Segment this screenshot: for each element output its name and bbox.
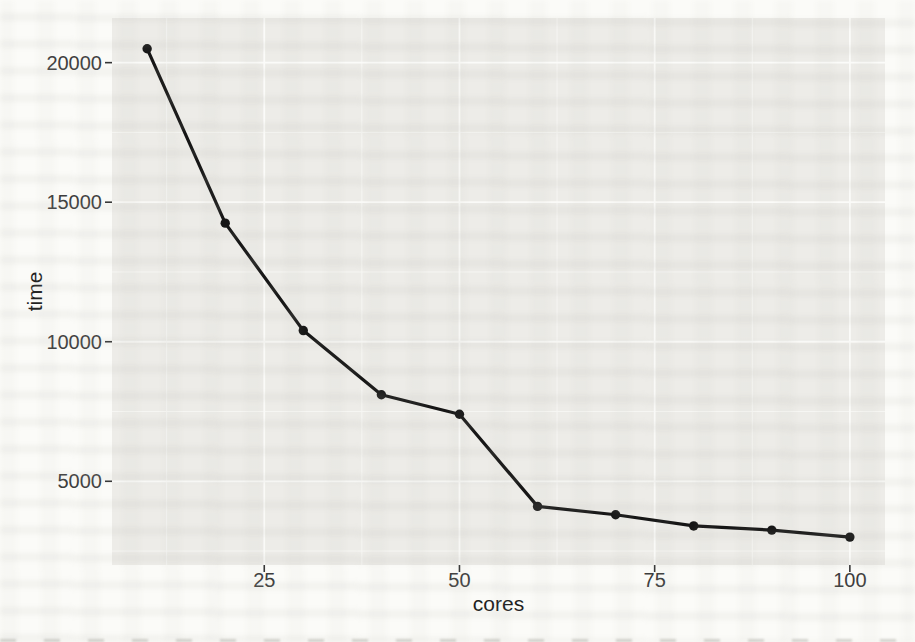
line-chart-figure: 2550751005000100001500020000corestime xyxy=(0,0,915,642)
plot-panel xyxy=(112,18,885,565)
y-tick-label: 20000 xyxy=(46,52,102,74)
data-point xyxy=(221,218,230,227)
y-tick-label: 10000 xyxy=(46,331,102,353)
y-tick-label: 15000 xyxy=(46,191,102,213)
data-point xyxy=(455,410,464,419)
x-tick-label: 75 xyxy=(644,569,666,591)
x-tick-label: 100 xyxy=(833,569,866,591)
data-point xyxy=(142,44,151,53)
data-point xyxy=(299,326,308,335)
data-point xyxy=(767,525,776,534)
x-tick-label: 25 xyxy=(253,569,275,591)
book-page: 2550751005000100001500020000corestime xyxy=(0,0,915,642)
data-point xyxy=(377,390,386,399)
x-tick-label: 50 xyxy=(448,569,470,591)
y-tick-label: 5000 xyxy=(58,470,103,492)
data-point xyxy=(611,510,620,519)
data-point xyxy=(845,532,854,541)
y-axis-title: time xyxy=(23,272,46,312)
time-vs-cores-chart: 2550751005000100001500020000corestime xyxy=(0,0,915,642)
x-axis-title: cores xyxy=(473,592,524,615)
data-point xyxy=(533,502,542,511)
data-point xyxy=(689,521,698,530)
